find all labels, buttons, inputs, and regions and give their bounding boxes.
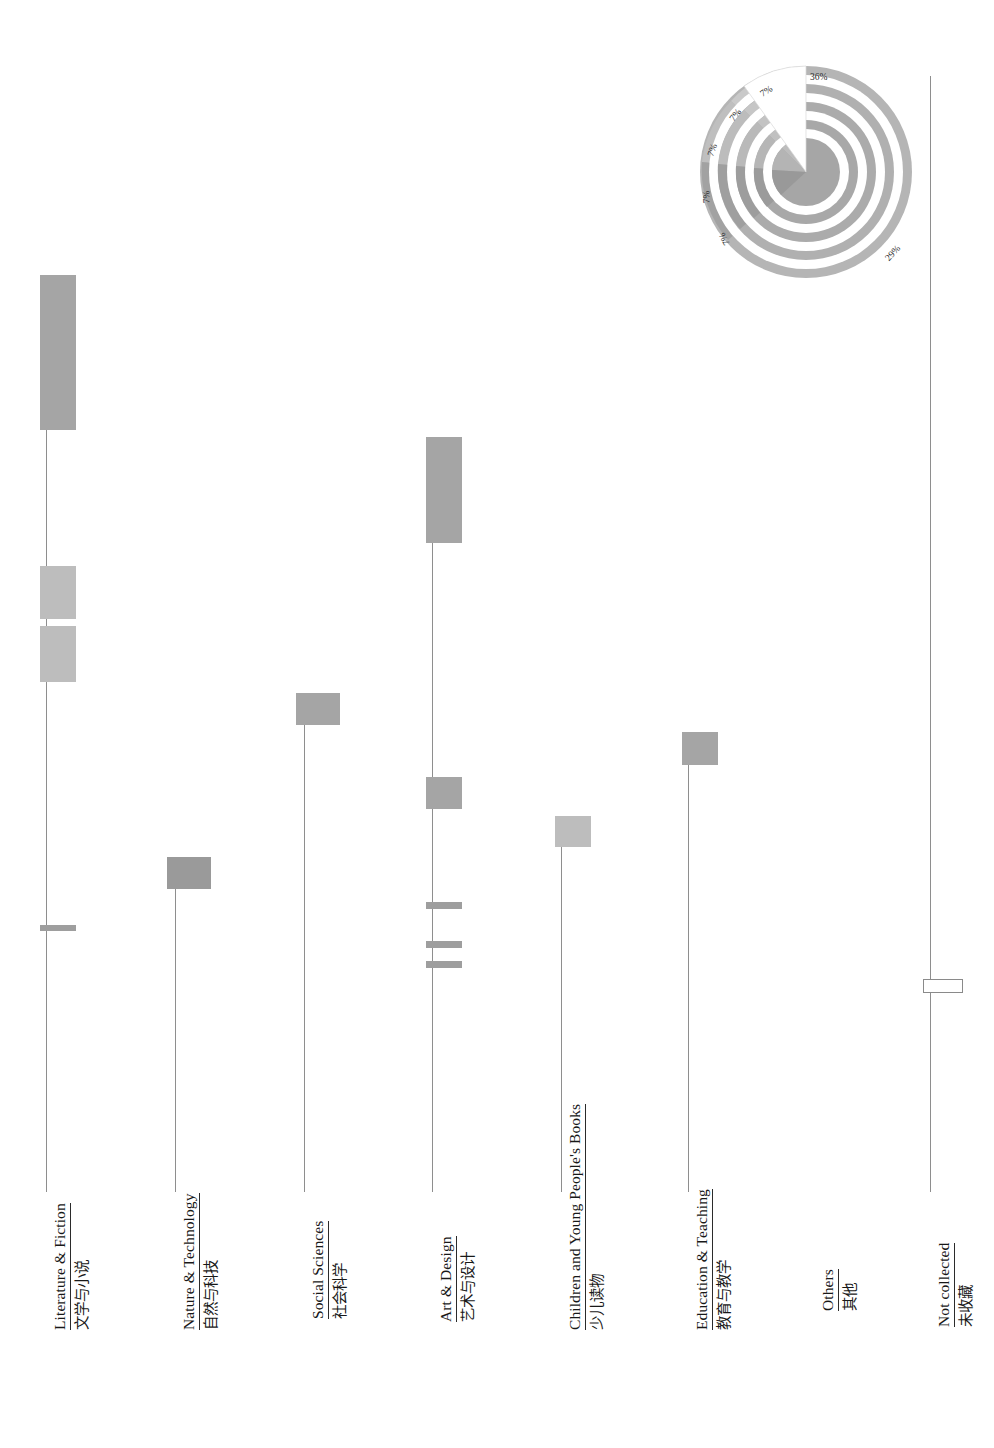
category-label-en: Nature & Technology: [181, 1193, 200, 1330]
category-label-en: Education & Teaching: [694, 1189, 713, 1330]
category-label-en: Not collected: [936, 1243, 955, 1327]
category-label-zh: 少儿读物: [590, 1104, 605, 1330]
bar-segment[interactable]: [923, 979, 963, 993]
bar-segment[interactable]: [296, 693, 340, 725]
bar-segment[interactable]: [555, 816, 591, 847]
category-label-zh: 教育与教学: [717, 1189, 732, 1330]
category-label-zh: 未收藏: [959, 1243, 974, 1327]
bar-segment[interactable]: [40, 925, 76, 931]
bar-segment[interactable]: [426, 941, 462, 948]
bar-segment[interactable]: [40, 275, 76, 430]
category-label-zh: 自然与科技: [204, 1193, 219, 1330]
category-label-en: Children and Young People's Books: [567, 1104, 586, 1330]
category-label: Nature & Technology自然与科技: [181, 1193, 218, 1330]
category-axis-stem: [688, 733, 689, 1192]
category-label: Education & Teaching教育与教学: [694, 1189, 731, 1330]
category-axis-stem: [930, 76, 931, 1192]
category-label: Social Sciences社会科学: [310, 1221, 347, 1319]
bar-segment[interactable]: [40, 566, 76, 619]
category-label: Not collected未收藏: [936, 1243, 973, 1327]
category-label-zh: 其他: [843, 1269, 858, 1311]
polar-percent-label: 7%: [701, 190, 711, 203]
bar-segment[interactable]: [426, 437, 462, 543]
bar-segment[interactable]: [426, 902, 462, 909]
category-axis-stem: [304, 694, 305, 1192]
category-axis-stem: [175, 858, 176, 1192]
bar-segment[interactable]: [426, 777, 462, 809]
polar-percent-label: 36%: [810, 72, 827, 82]
polar-pie-chart: 36%7%7%7%7%7%29%: [688, 52, 928, 292]
bar-segment[interactable]: [167, 857, 211, 889]
category-label-zh: 文学与小说: [75, 1203, 90, 1330]
category-label-en: Others: [820, 1269, 839, 1311]
category-label: Others其他: [820, 1269, 857, 1311]
bar-segment[interactable]: [426, 961, 462, 968]
bar-segment[interactable]: [40, 626, 76, 682]
bar-segment[interactable]: [682, 732, 718, 765]
category-axis-stem: [561, 817, 562, 1192]
category-label: Literature & Fiction文学与小说: [52, 1203, 89, 1330]
category-label-en: Literature & Fiction: [52, 1203, 71, 1330]
category-label: Art & Design艺术与设计: [438, 1236, 475, 1322]
category-label-zh: 艺术与设计: [461, 1236, 476, 1322]
category-label: Children and Young People's Books少儿读物: [567, 1104, 604, 1330]
category-label-en: Art & Design: [438, 1236, 457, 1322]
chart-canvas: Literature & Fiction文学与小说Nature & Techno…: [0, 0, 994, 1448]
category-label-zh: 社会科学: [333, 1221, 348, 1319]
category-axis-stem: [432, 438, 433, 1192]
category-label-en: Social Sciences: [310, 1221, 329, 1319]
